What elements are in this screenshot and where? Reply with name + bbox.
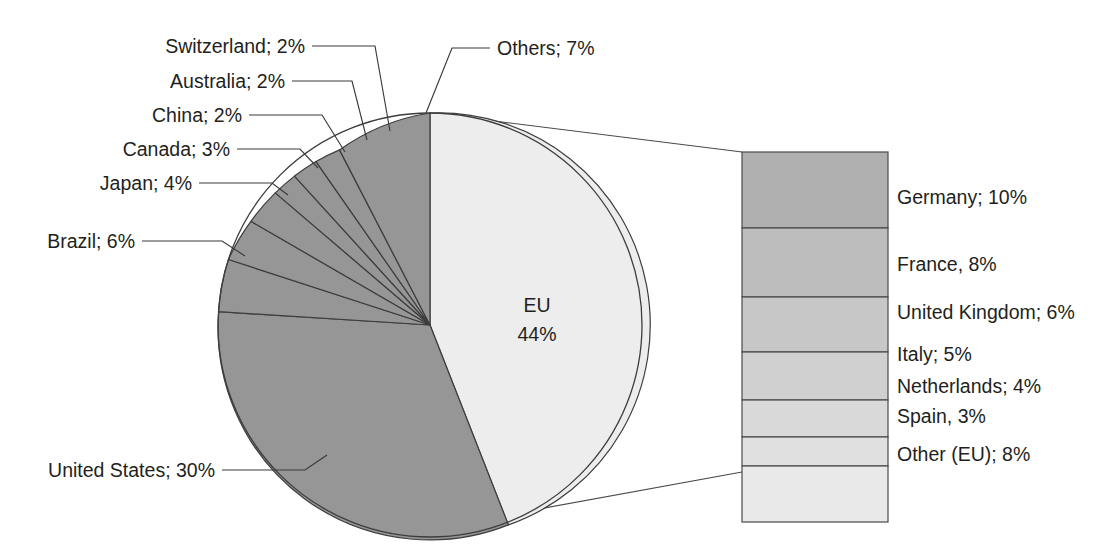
chart-canvas: Switzerland; 2% Australia; 2% China; 2% … — [0, 0, 1117, 559]
pie-with-breakout-bar-figure: Switzerland; 2% Australia; 2% China; 2% … — [0, 0, 1117, 559]
bar-segment-other-eu[interactable] — [742, 466, 888, 522]
leader-line-others — [426, 48, 490, 113]
bar-label-netherlands: Netherlands; 4% — [897, 375, 1041, 397]
pie-center-name: EU — [523, 294, 550, 316]
bar-segment-italy[interactable] — [742, 352, 888, 400]
pie-label-australia: Australia; 2% — [170, 70, 285, 92]
leader-line-australia — [292, 81, 367, 140]
bar-label-spain: Spain, 3% — [897, 405, 986, 427]
bar-label-other-eu: Other (EU); 8% — [897, 443, 1030, 465]
pie-label-canada: Canada; 3% — [123, 138, 230, 160]
bar-label-france: France, 8% — [897, 253, 997, 275]
bar-segment-netherlands[interactable] — [742, 400, 888, 437]
pie-chart — [218, 113, 650, 540]
bar-segment-germany[interactable] — [742, 152, 888, 228]
leader-line-canada — [237, 149, 318, 168]
bar-label-united-kingdom: United Kingdom; 6% — [897, 301, 1075, 323]
bar-label-italy: Italy; 5% — [897, 343, 972, 365]
leader-line-brazil — [142, 241, 245, 256]
bar-segment-spain[interactable] — [742, 437, 888, 466]
pie-label-switzerland: Switzerland; 2% — [165, 35, 305, 57]
breakout-bar — [742, 152, 888, 522]
pie-center-value: 44% — [517, 323, 556, 345]
pie-label-united-states: United States; 30% — [48, 459, 215, 481]
leader-line-china — [249, 115, 345, 152]
bar-segment-france[interactable] — [742, 228, 888, 297]
pie-label-brazil: Brazil; 6% — [47, 230, 135, 252]
breakout-bar-labels: Germany; 10% France, 8% United Kingdom; … — [897, 186, 1075, 465]
bar-label-germany: Germany; 10% — [897, 186, 1027, 208]
pie-label-japan: Japan; 4% — [100, 172, 192, 194]
bar-segment-united-kingdom[interactable] — [742, 297, 888, 352]
pie-label-others: Others; 7% — [497, 37, 595, 59]
pie-label-china: China; 2% — [152, 104, 242, 126]
